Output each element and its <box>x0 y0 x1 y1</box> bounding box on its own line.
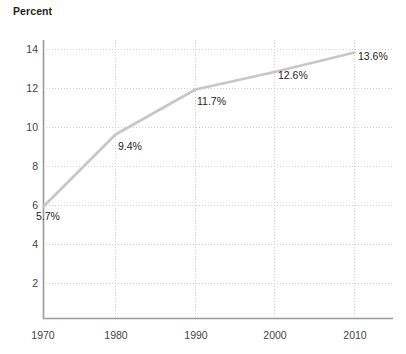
data-label-2000: 12.6% <box>278 70 308 81</box>
y-tick-label-6: 6 <box>12 200 38 211</box>
y-tick-label-4: 4 <box>12 239 38 250</box>
y-tick-label-14: 14 <box>12 44 38 55</box>
chart-container: Percent 14 12 10 8 6 4 2 1970 19 <box>0 0 406 354</box>
data-series-line <box>44 53 355 207</box>
y-tick-label-8: 8 <box>12 161 38 172</box>
chart-plot-area <box>0 0 406 354</box>
y-tick-label-12: 12 <box>12 83 38 94</box>
y-tick-label-10: 10 <box>12 122 38 133</box>
data-label-1990: 11.7% <box>197 96 226 107</box>
x-tick-label-1970: 1970 <box>20 330 66 341</box>
x-tick-label-2010: 2010 <box>332 330 378 341</box>
x-tick-label-1990: 1990 <box>173 330 219 341</box>
data-label-1970: 5.7% <box>36 211 60 222</box>
data-label-1980: 9.4% <box>118 141 142 152</box>
x-tick-label-2000: 2000 <box>252 330 298 341</box>
data-label-2010: 13.6% <box>358 51 388 62</box>
x-tick-label-1980: 1980 <box>93 330 139 341</box>
y-tick-label-2: 2 <box>12 278 38 289</box>
